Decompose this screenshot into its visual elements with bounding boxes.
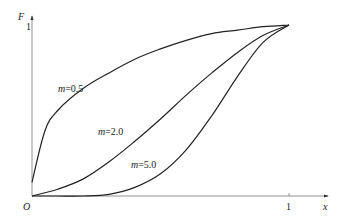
curve-label-m-2.0: m=2.0 bbox=[98, 126, 123, 137]
curve-m-0.5 bbox=[32, 25, 289, 182]
curve-m-5.0 bbox=[32, 25, 289, 196]
curve-label-m-5.0: m=5.0 bbox=[131, 159, 156, 170]
x-axis-label: x bbox=[322, 201, 328, 212]
x-tick-label-1: 1 bbox=[286, 201, 291, 212]
y-tick-label-1: 1 bbox=[26, 21, 31, 32]
curve-label-m-0.5: m=0.5 bbox=[58, 83, 83, 94]
chart-canvas: F 1 O 1 x m=0.5 m=2.0 m=5.0 bbox=[0, 0, 348, 217]
curve-m-2.0 bbox=[32, 25, 289, 196]
y-axis-label: F bbox=[17, 11, 25, 22]
origin-label: O bbox=[23, 201, 30, 212]
